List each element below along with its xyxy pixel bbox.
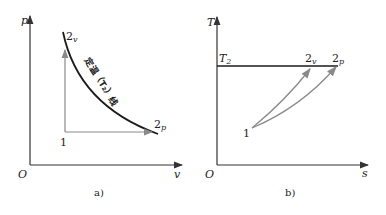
point-1-label: 1 [60,136,67,149]
point-2p-label: 2p [332,52,344,66]
origin-label: O [205,168,214,181]
caption-b: b) [285,187,295,198]
point-2p-label: 2p [154,118,166,132]
point-2v-label: 2v [66,30,78,44]
T-axis-label: T [207,16,216,29]
point-1-label: 1 [243,127,250,140]
isotherm-curve [63,32,158,134]
isobaric-process-arrow [252,67,336,128]
v-axis-label: v [174,168,181,181]
panel-b-ts-diagram: T s O T2 1 2v 2p b) [205,16,368,198]
panel-a-pv-diagram: p v O 1 2v 2p 定温（T₂）线 a) [18,14,182,198]
point-2v-label: 2v [305,52,317,66]
s-axis-label: s [362,167,368,180]
isochoric-process-arrow [252,69,310,128]
p-axis-label: p [21,14,28,27]
thermo-diagram: p v O 1 2v 2p 定温（T₂）线 a) T s O T2 1 [0,0,386,215]
caption-a: a) [94,187,104,198]
origin-label: O [18,168,27,181]
T2-label: T2 [219,52,231,66]
